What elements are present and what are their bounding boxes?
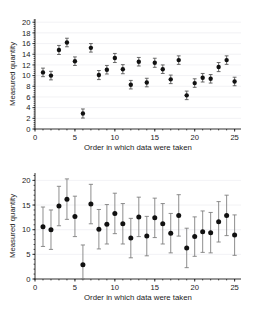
y-tick-label: 12 — [22, 61, 30, 70]
data-point — [48, 227, 53, 232]
data-point — [232, 79, 236, 83]
y-tick-label: 14 — [22, 50, 30, 59]
y-tick-label: 5 — [26, 250, 30, 259]
data-point — [128, 236, 133, 241]
data-point — [200, 76, 204, 80]
y-tick-label: 16 — [22, 39, 30, 48]
data-point — [153, 61, 157, 65]
y-tick-label: 20 — [22, 18, 30, 27]
chart-panel-bottom: 051015200510152025Order in which data we… — [0, 156, 265, 311]
x-axis-label: Order in which data were taken — [84, 293, 192, 302]
data-point — [184, 245, 189, 250]
data-point — [200, 229, 205, 234]
x-tick-label: 20 — [190, 283, 198, 292]
data-point — [216, 219, 221, 224]
data-point — [232, 233, 237, 238]
data-point — [152, 215, 157, 220]
data-point — [41, 70, 45, 74]
data-point — [80, 262, 85, 267]
data-point — [72, 214, 77, 219]
data-point — [73, 59, 77, 63]
axis-spines — [35, 19, 241, 129]
x-axis-label: Order in which data were taken — [84, 143, 192, 152]
y-tick-label: 10 — [22, 225, 30, 234]
y-tick-label: 0 — [26, 125, 30, 134]
x-tick-label: 0 — [33, 133, 37, 142]
data-point — [185, 93, 189, 97]
axis-spines — [35, 173, 241, 279]
data-point — [112, 211, 117, 216]
data-point — [208, 230, 213, 235]
x-tick-label: 0 — [33, 283, 37, 292]
data-point — [97, 73, 101, 77]
y-tick-label: 10 — [22, 71, 30, 80]
data-point — [57, 48, 61, 52]
data-point — [121, 67, 125, 71]
data-point — [113, 56, 117, 60]
data-point — [96, 227, 101, 232]
data-point — [168, 231, 173, 236]
data-point — [160, 221, 165, 226]
y-tick-label: 18 — [22, 29, 30, 38]
x-tick-label: 10 — [111, 283, 119, 292]
data-point — [145, 80, 149, 84]
data-point — [88, 202, 93, 207]
two-panel-errorbar-figure: 024681012141618200510152025Order in whic… — [0, 0, 265, 311]
data-point — [136, 214, 141, 219]
x-tick-label: 5 — [73, 283, 77, 292]
data-point — [176, 213, 181, 218]
y-tick-label: 2 — [26, 114, 30, 123]
y-axis-label: Measured quantity — [8, 194, 17, 258]
data-point — [129, 82, 133, 86]
chart-panel-top: 024681012141618200510152025Order in whic… — [0, 0, 265, 155]
x-tick-label: 10 — [111, 133, 119, 142]
data-point — [120, 221, 125, 226]
data-point — [224, 213, 229, 218]
x-tick-label: 25 — [230, 133, 238, 142]
y-axis-label: Measured quantity — [8, 42, 17, 106]
data-point — [56, 204, 61, 209]
data-point — [40, 224, 45, 229]
data-point — [89, 46, 93, 50]
data-point — [64, 197, 69, 202]
data-point — [81, 111, 85, 115]
y-tick-label: 8 — [26, 82, 30, 91]
data-point — [104, 222, 109, 227]
y-tick-label: 0 — [26, 275, 30, 284]
x-tick-label: 25 — [230, 283, 238, 292]
data-point — [224, 58, 228, 62]
data-point — [192, 81, 196, 85]
data-point — [216, 65, 220, 69]
data-point — [144, 234, 149, 239]
x-tick-label: 5 — [73, 133, 77, 142]
data-point — [161, 67, 165, 71]
data-point — [177, 58, 181, 62]
y-tick-label: 4 — [26, 103, 30, 112]
x-tick-label: 15 — [151, 133, 159, 142]
y-tick-label: 20 — [22, 176, 30, 185]
y-tick-label: 15 — [22, 201, 30, 210]
data-point — [169, 77, 173, 81]
data-point — [208, 77, 212, 81]
data-point — [105, 68, 109, 72]
data-point — [49, 73, 53, 77]
data-point — [137, 60, 141, 64]
x-tick-label: 20 — [190, 133, 198, 142]
x-tick-label: 15 — [151, 283, 159, 292]
data-point — [192, 234, 197, 239]
data-point — [65, 40, 69, 44]
y-tick-label: 6 — [26, 93, 30, 102]
